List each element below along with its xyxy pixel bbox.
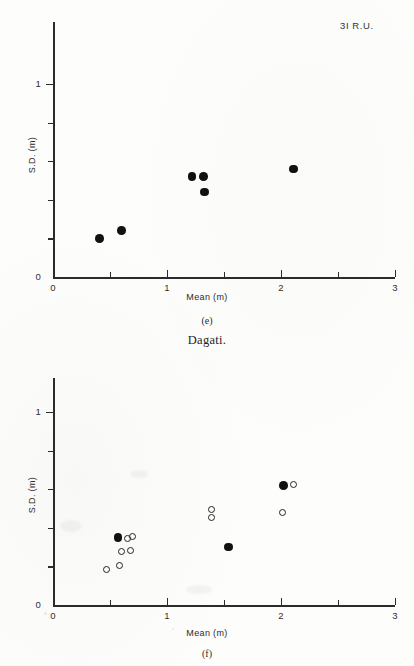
y-axis-minor-tick — [48, 451, 53, 452]
data-point-filled — [95, 234, 104, 243]
data-point-filled — [117, 226, 126, 235]
y-axis-line — [53, 22, 55, 277]
panel-letter-f: (f) — [0, 648, 414, 659]
data-point-filled — [279, 481, 288, 490]
data-point-open — [290, 481, 297, 488]
x-axis-tick-label: 0 — [33, 282, 73, 293]
y-axis-minor-tick — [48, 161, 53, 162]
y-axis-tick-label: 1 — [19, 406, 41, 417]
data-point-open — [118, 548, 125, 555]
x-axis-tick — [167, 598, 168, 605]
x-axis-title-e: Mean (m) — [157, 292, 257, 302]
x-axis-tick-label: 3 — [375, 282, 414, 293]
plot-area-f: 012301 — [0, 360, 414, 650]
data-point-open — [127, 547, 134, 554]
x-axis-tick — [53, 598, 54, 605]
data-point-open — [116, 562, 123, 569]
x-axis-tick-label: 3 — [375, 610, 414, 621]
scatter-plot-e: 3I R.U. 012301 Mean (m) S.D. (m) — [0, 0, 414, 300]
data-point-filled — [289, 165, 298, 174]
x-axis-tick — [53, 270, 54, 277]
data-point-open — [103, 566, 110, 573]
y-axis-minor-tick — [48, 200, 53, 201]
x-axis-tick-label: 0 — [33, 610, 73, 621]
x-axis-tick — [395, 598, 396, 605]
figure-scatter-plots: 3I R.U. 012301 Mean (m) S.D. (m) (e) Dag… — [0, 0, 414, 666]
y-axis-tick-label: 0 — [19, 271, 41, 282]
y-axis-minor-tick — [48, 489, 53, 490]
y-axis-minor-tick — [48, 238, 53, 239]
y-axis-minor-tick — [48, 528, 53, 529]
data-point-open — [129, 533, 136, 540]
y-axis-minor-tick — [48, 566, 53, 567]
panel-letter-e: (e) — [0, 315, 414, 326]
x-axis-minor-tick — [224, 272, 225, 277]
x-axis-minor-tick — [110, 272, 111, 277]
data-point-filled — [199, 172, 208, 181]
data-point-filled — [114, 533, 123, 542]
x-axis-minor-tick — [224, 600, 225, 605]
figure-group-title: Dagati. — [0, 333, 414, 348]
data-point-filled — [188, 172, 197, 181]
x-axis-minor-tick — [110, 600, 111, 605]
x-axis-minor-tick — [338, 272, 339, 277]
x-axis-tick-label: 2 — [261, 610, 301, 621]
y-axis-line — [53, 378, 55, 605]
x-axis-tick-label: 1 — [147, 610, 187, 621]
x-axis-title-f: Mean (m) — [157, 628, 257, 638]
y-axis-tick-label: 1 — [19, 78, 41, 89]
plot-area-e: 012301 — [0, 0, 414, 300]
y-axis-title-f: S.D. (m) — [27, 460, 37, 530]
x-axis-minor-tick — [338, 600, 339, 605]
x-axis-line — [53, 277, 395, 279]
y-axis-minor-tick — [48, 123, 53, 124]
x-axis-line — [53, 605, 395, 607]
x-axis-tick — [167, 270, 168, 277]
data-point-open — [208, 514, 215, 521]
data-point-filled — [200, 188, 209, 197]
y-axis-tick-label: 0 — [19, 599, 41, 610]
y-axis-tick — [46, 84, 53, 85]
data-point-open — [279, 509, 286, 516]
y-axis-title-e: S.D. (m) — [27, 120, 37, 190]
x-axis-tick — [281, 270, 282, 277]
data-point-filled — [224, 543, 233, 552]
y-axis-tick — [46, 412, 53, 413]
scatter-plot-f: 012301 Mean (m) S.D. (m) — [0, 360, 414, 650]
data-point-open — [208, 506, 215, 513]
x-axis-tick — [395, 270, 396, 277]
x-axis-tick — [281, 598, 282, 605]
x-axis-tick-label: 2 — [261, 282, 301, 293]
